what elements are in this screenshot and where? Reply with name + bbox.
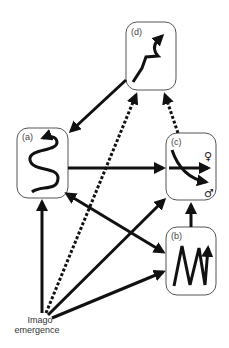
box-a-label: (a): [22, 132, 33, 142]
box-b-label: (b): [171, 231, 182, 241]
box-c-label: (c): [171, 137, 182, 147]
box-d: (d): [126, 22, 176, 90]
life-history-diagram: (d) (a) (c) ♀ ♂ (b): [0, 0, 229, 348]
edge-origin-to-d-dashed: [46, 95, 136, 313]
origin-label-line2: emergence: [14, 325, 59, 335]
box-b: (b): [166, 227, 216, 295]
box-d-label: (d): [131, 27, 142, 37]
female-symbol: ♀: [204, 150, 212, 163]
edge-d-to-a: [71, 80, 126, 131]
male-symbol: ♂: [204, 187, 214, 200]
edge-a-b-bidirectional: [72, 197, 163, 252]
box-a: (a): [17, 128, 68, 198]
edge-c-to-d-dashed: [165, 95, 178, 133]
origin-label-line1: Imago: [27, 315, 52, 325]
